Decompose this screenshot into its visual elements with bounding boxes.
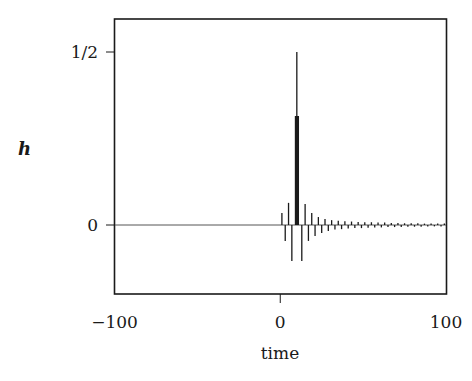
y-axis-ticks: 01/2 [71,42,115,235]
bar-series [295,116,299,225]
x-axis-label: time [261,343,299,363]
y-tick-label: 0 [87,215,98,235]
y-tick-label: 1/2 [71,42,98,62]
x-tick-label: 100 [430,312,462,332]
stem-series [282,52,444,261]
central-bar [295,116,299,225]
x-axis-ticks: −1000100 [91,294,462,332]
x-tick-label: −100 [91,312,138,332]
y-axis-label: h [18,138,31,159]
x-tick-label: 0 [275,312,286,332]
plot-frame [115,19,447,294]
chart: 01/2 −1000100 h time [0,0,472,381]
